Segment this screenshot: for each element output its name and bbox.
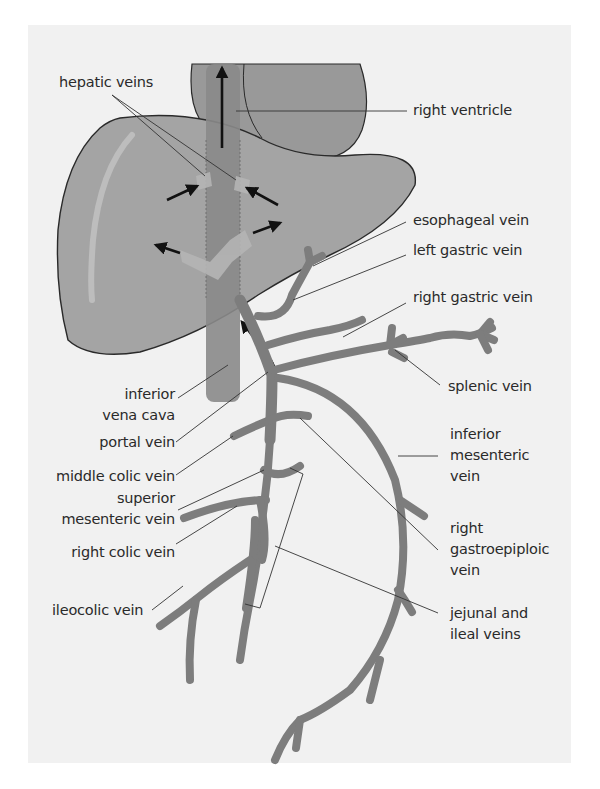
label-inferior-vena-cava: inferior vena cava <box>60 384 175 426</box>
label-inferior-mesenteric-vein: inferior mesenteric vein <box>450 424 529 487</box>
label-ileocolic-vein: ileocolic vein <box>52 600 143 621</box>
label-left-gastric-vein: left gastric vein <box>413 240 522 261</box>
label-portal-vein: portal vein <box>60 432 175 453</box>
label-esophageal-vein: esophageal vein <box>413 210 529 231</box>
label-hepatic-veins: hepatic veins <box>59 72 153 93</box>
label-superior-mesenteric-vein: superior mesenteric vein <box>40 488 175 530</box>
label-right-gastroepiploic-vein: right gastroepiploic vein <box>450 518 549 581</box>
label-middle-colic-vein: middle colic vein <box>40 466 175 487</box>
label-right-colic-vein: right colic vein <box>40 542 175 563</box>
label-jejunal-and-ileal-veins: jejunal and ileal veins <box>450 603 528 645</box>
label-splenic-vein: splenic vein <box>448 376 532 397</box>
label-right-ventricle: right ventricle <box>413 100 512 121</box>
label-right-gastric-vein: right gastric vein <box>413 287 533 308</box>
